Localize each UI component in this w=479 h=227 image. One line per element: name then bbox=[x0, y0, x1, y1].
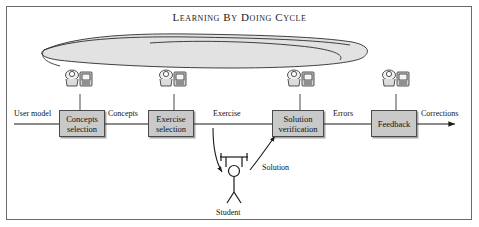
box-label: Solution verification bbox=[278, 114, 317, 134]
box-label: Feedback bbox=[378, 119, 411, 129]
diagram-root: Learning By Doing Cycle bbox=[0, 0, 479, 227]
box-feedback[interactable]: Feedback bbox=[371, 110, 417, 137]
label-user-model: User model bbox=[14, 109, 51, 118]
teacher-icon-1 bbox=[63, 66, 97, 92]
actor-connectors bbox=[80, 94, 396, 110]
box-label: Concepts selection bbox=[66, 114, 98, 134]
teacher-icon-4 bbox=[380, 66, 414, 92]
box-concepts-selection[interactable]: Concepts selection bbox=[59, 110, 105, 137]
label-exercise: Exercise bbox=[213, 109, 241, 118]
box-label-line1: Concepts bbox=[66, 114, 98, 124]
teacher-icon-3 bbox=[285, 66, 319, 92]
box-label-line1: Exercise bbox=[156, 114, 185, 124]
cycle-loop-shape bbox=[42, 34, 368, 68]
box-label-line2: selection bbox=[156, 124, 186, 134]
label-concepts: Concepts bbox=[108, 109, 138, 118]
label-corrections: Corrections bbox=[421, 109, 458, 118]
box-label-line2: verification bbox=[278, 124, 317, 134]
box-label: Exercise selection bbox=[156, 114, 186, 134]
box-solution-verification[interactable]: Solution verification bbox=[272, 110, 324, 137]
box-exercise-selection[interactable]: Exercise selection bbox=[148, 110, 194, 137]
box-label-line1: Solution bbox=[284, 114, 313, 124]
teacher-icon-2 bbox=[157, 66, 191, 92]
box-label-line2: selection bbox=[67, 124, 97, 134]
label-solution: Solution bbox=[262, 163, 289, 172]
label-student: Student bbox=[216, 208, 240, 217]
student-figure bbox=[220, 153, 248, 203]
label-errors: Errors bbox=[333, 109, 353, 118]
